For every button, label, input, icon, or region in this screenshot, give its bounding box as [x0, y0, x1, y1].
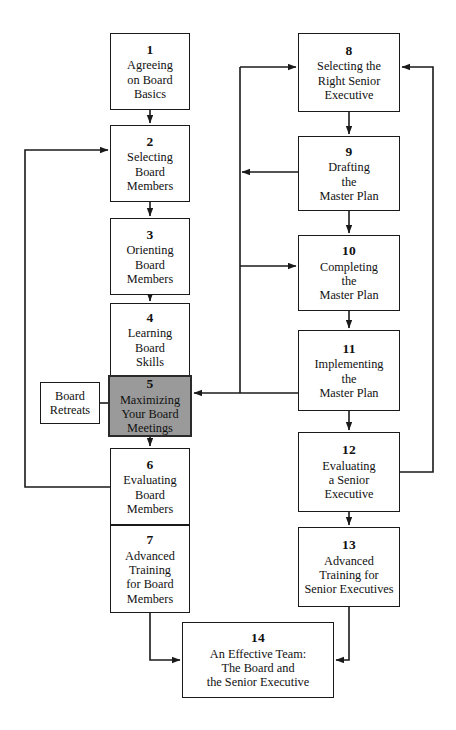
connector-node-13-to-node-14 — [336, 607, 349, 660]
node-6-number: 6 — [147, 457, 154, 473]
node-8-number: 8 — [346, 43, 353, 59]
node-11-label: Implementing the Master Plan — [312, 357, 387, 400]
node-12[interactable]: 12Evaluating a Senior Executive — [298, 432, 400, 512]
node-9-number: 9 — [346, 144, 353, 160]
connector-node-6-to-node-2 — [25, 150, 110, 487]
node-14-label: An Effective Team: The Board and the Sen… — [204, 647, 312, 690]
node-3-number: 3 — [147, 227, 154, 243]
node-board-retreats[interactable]: Board Retreats — [40, 382, 100, 424]
node-7[interactable]: 7Advanced Training for Board Members — [110, 525, 190, 613]
node-12-number: 12 — [342, 442, 356, 458]
node-5-number: 5 — [147, 376, 154, 392]
node-10-label: Completing the Master Plan — [316, 260, 381, 303]
node-4-number: 4 — [147, 310, 154, 326]
node-6[interactable]: 6Evaluating Board Members — [110, 448, 190, 525]
node-9-label: Drafting the Master Plan — [316, 160, 381, 203]
node-1-number: 1 — [147, 42, 154, 58]
node-1[interactable]: 1Agreeing on Board Basics — [110, 33, 190, 110]
node-5-label: Maximizing Your Board Meetings — [117, 393, 183, 436]
node-7-number: 7 — [147, 532, 154, 548]
node-11[interactable]: 11Implementing the Master Plan — [298, 330, 400, 411]
node-8-label: Selecting the Right Senior Executive — [314, 59, 384, 102]
node-14[interactable]: 14An Effective Team: The Board and the S… — [182, 622, 334, 698]
connector-node-7-to-node-14 — [150, 613, 180, 660]
node-8[interactable]: 8Selecting the Right Senior Executive — [298, 33, 400, 112]
node-board-retreats-label: Board Retreats — [47, 389, 93, 418]
node-4[interactable]: 4Learning Board Skills — [110, 303, 190, 376]
node-1-label: Agreeing on Board Basics — [124, 58, 176, 101]
node-13-number: 13 — [342, 537, 356, 553]
node-13-label: Advanced Training for Senior Executives — [301, 554, 396, 597]
node-7-label: Advanced Training for Board Members — [122, 549, 178, 606]
node-9[interactable]: 9Drafting the Master Plan — [298, 136, 400, 211]
node-6-label: Evaluating Board Members — [120, 473, 179, 516]
node-10[interactable]: 10Completing the Master Plan — [298, 235, 400, 311]
node-5[interactable]: 5Maximizing Your Board Meetings — [108, 375, 192, 437]
node-13[interactable]: 13Advanced Training for Senior Executive… — [298, 527, 400, 607]
node-14-number: 14 — [251, 630, 265, 646]
connector-node-12-to-node-8 — [400, 67, 433, 472]
node-4-label: Learning Board Skills — [125, 326, 175, 369]
node-11-number: 11 — [342, 341, 355, 357]
node-2-number: 2 — [147, 134, 154, 150]
node-2[interactable]: 2Selecting Board Members — [110, 125, 190, 202]
flowchart-canvas: 1Agreeing on Board Basics2Selecting Boar… — [0, 0, 456, 730]
node-12-label: Evaluating a Senior Executive — [319, 459, 378, 502]
node-10-number: 10 — [342, 243, 356, 259]
node-3[interactable]: 3Orienting Board Members — [110, 218, 190, 295]
node-2-label: Selecting Board Members — [124, 150, 176, 193]
node-3-label: Orienting Board Members — [123, 243, 176, 286]
